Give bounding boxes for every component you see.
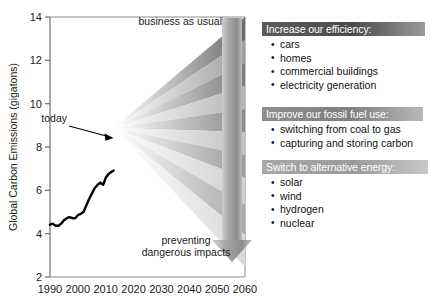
y-tick-12: 12 bbox=[30, 54, 42, 66]
x-tick-labels: 1990 2000 2010 2020 2030 2040 2050 2060 bbox=[38, 283, 257, 295]
list-item: wind bbox=[271, 190, 428, 204]
group-improve-fossil-fuel-use: Improve our fossil fuel use: switching f… bbox=[262, 107, 428, 150]
annotation-today: today bbox=[41, 112, 67, 124]
today-pointer-icon bbox=[69, 126, 114, 141]
list-item: hydrogen bbox=[271, 203, 428, 217]
x-tick-2030: 2030 bbox=[149, 283, 173, 295]
y-tick-labels: 14 12 10 8 6 4 2 bbox=[30, 11, 42, 283]
list-item: solar bbox=[271, 176, 428, 190]
group-header-improve-fossil-fuel-use: Improve our fossil fuel use: bbox=[262, 107, 423, 121]
x-tick-2050: 2050 bbox=[205, 283, 229, 295]
mitigation-options-panel: Increase our efficiency: cars homes comm… bbox=[262, 0, 430, 307]
x-tick-2010: 2010 bbox=[93, 283, 117, 295]
group-list-increase-efficiency: cars homes commercial buildings electric… bbox=[262, 38, 428, 92]
list-item: switching from coal to gas bbox=[271, 123, 428, 137]
y-tick-2: 2 bbox=[36, 271, 42, 283]
annotation-preventing-line1: preventing bbox=[161, 234, 210, 246]
group-increase-efficiency: Increase our efficiency: cars homes comm… bbox=[262, 22, 428, 92]
x-tick-2060: 2060 bbox=[233, 283, 257, 295]
x-tick-1990: 1990 bbox=[38, 283, 62, 295]
group-header-increase-efficiency: Increase our efficiency: bbox=[262, 22, 425, 36]
y-axis-ticks bbox=[45, 17, 50, 277]
x-tick-2040: 2040 bbox=[177, 283, 201, 295]
y-tick-6: 6 bbox=[36, 184, 42, 196]
list-item: cars bbox=[271, 38, 428, 52]
group-list-improve-fossil-fuel-use: switching from coal to gas capturing and… bbox=[262, 123, 428, 150]
y-tick-4: 4 bbox=[36, 228, 42, 240]
annotation-preventing-line2: dangerous impacts bbox=[142, 246, 231, 258]
annotation-business-as-usual: business as usual bbox=[139, 15, 222, 27]
x-tick-2020: 2020 bbox=[121, 283, 145, 295]
list-item: capturing and storing carbon bbox=[271, 137, 428, 151]
list-item: commercial buildings bbox=[271, 65, 428, 79]
x-tick-2000: 2000 bbox=[66, 283, 90, 295]
y-tick-10: 10 bbox=[30, 98, 42, 110]
y-axis-title: Global Carbon Emissions (gigatons) bbox=[7, 63, 19, 231]
list-item: nuclear bbox=[271, 217, 428, 231]
y-tick-8: 8 bbox=[36, 141, 42, 153]
list-item: electricity generation bbox=[271, 79, 428, 93]
group-list-switch-alternative-energy: solar wind hydrogen nuclear bbox=[262, 176, 428, 230]
y-tick-14: 14 bbox=[30, 11, 42, 23]
group-switch-alternative-energy: Switch to alternative energy: solar wind… bbox=[262, 160, 428, 230]
emissions-chart: 14 12 10 8 6 4 2 1990 2000 2010 2020 203… bbox=[0, 0, 258, 307]
group-header-switch-alternative-energy: Switch to alternative energy: bbox=[262, 160, 428, 174]
list-item: homes bbox=[271, 52, 428, 66]
figure-root: 14 12 10 8 6 4 2 1990 2000 2010 2020 203… bbox=[0, 0, 430, 307]
historical-emissions-line bbox=[50, 171, 114, 226]
